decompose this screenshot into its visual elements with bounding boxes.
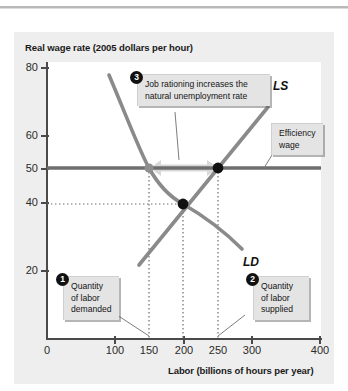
quantity-demanded-callout-line3: demanded xyxy=(71,304,113,316)
chart-vector-layer xyxy=(0,0,348,391)
quantity-supplied-callout-line2: of labor xyxy=(261,293,303,305)
equilibrium-point xyxy=(178,199,189,210)
efficiency-wage-label-line1: Efficiency xyxy=(279,128,317,140)
quantity-demanded-point xyxy=(144,163,153,172)
job-rationing-callout-line1: Job rationing increases the xyxy=(145,79,264,91)
callout-1-leader-line xyxy=(117,315,149,336)
job-rationing-callout: Job rationing increases the natural unem… xyxy=(137,74,270,106)
efficiency-wage-label-box: Efficiency wage xyxy=(271,123,323,155)
ld-curve-label: LD xyxy=(243,255,259,269)
callout-badge-1: 1 xyxy=(56,273,69,286)
efficiency-wage-label-line2: wage xyxy=(279,140,317,152)
chart-figure: Real wage rate (2005 dollars per hour) L… xyxy=(0,0,348,391)
callout-badge-3: 3 xyxy=(130,71,143,84)
callout-badge-2: 2 xyxy=(246,273,259,286)
quantity-demanded-callout: Quantity of labor demanded xyxy=(63,276,119,320)
labor-supply-curve xyxy=(139,107,268,265)
callout-3-leader-line xyxy=(175,112,179,160)
quantity-demanded-callout-line2: of labor xyxy=(71,293,113,305)
ls-curve-label: LS xyxy=(273,79,288,93)
efficiency-wage-leader-line xyxy=(264,155,272,168)
quantity-supplied-callout-line3: supplied xyxy=(261,304,303,316)
quantity-supplied-callout-line1: Quantity xyxy=(261,281,303,293)
quantity-demanded-callout-line1: Quantity xyxy=(71,281,113,293)
quantity-supplied-callout: Quantity of labor supplied xyxy=(253,276,309,320)
quantity-supplied-point xyxy=(213,163,224,174)
callout-2-leader-line xyxy=(218,315,245,336)
job-rationing-callout-line2: natural unemployment rate xyxy=(145,91,264,103)
